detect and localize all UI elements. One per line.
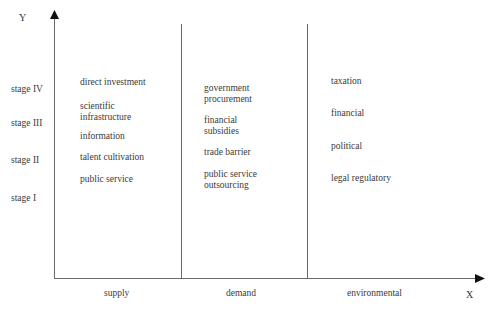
- x-axis-label: X: [466, 289, 473, 300]
- y-axis-label: Y: [19, 12, 26, 23]
- x-axis-arrow-icon: [475, 274, 485, 283]
- column-label-environmental: environmental: [347, 288, 402, 299]
- x-axis: [54, 278, 478, 279]
- divider-demand-environmental: [307, 24, 308, 279]
- divider-supply-demand: [181, 24, 182, 279]
- column-label-supply: supply: [104, 288, 129, 299]
- supply-item-talent-cultivation: talent cultivation: [80, 152, 144, 163]
- environmental-item-political: political: [331, 141, 362, 152]
- supply-item-information: information: [80, 131, 125, 142]
- stage-label-iii: stage III: [11, 118, 42, 129]
- y-axis: [54, 18, 55, 279]
- environmental-item-legal-regulatory: legal regulatory: [331, 173, 391, 184]
- environmental-item-financial: financial: [331, 108, 364, 119]
- demand-item-public-service-outsourcing: public service outsourcing: [204, 169, 269, 191]
- column-label-demand: demand: [226, 288, 256, 299]
- stage-label-iv: stage IV: [11, 84, 43, 95]
- supply-item-public-service: public service: [80, 174, 133, 185]
- environmental-item-taxation: taxation: [331, 76, 362, 87]
- demand-item-government-procurement: government procurement: [204, 83, 274, 105]
- supply-item-direct-investment: direct investment: [80, 77, 146, 88]
- y-axis-arrow-icon: [50, 10, 59, 20]
- stage-label-ii: stage II: [11, 155, 39, 166]
- demand-item-financial-subsidies: financial subsidies: [204, 115, 259, 137]
- stage-label-i: stage I: [11, 193, 36, 204]
- supply-item-scientific-infrastructure: scientific infrastructure: [80, 101, 150, 123]
- demand-item-trade-barrier: trade barrier: [204, 147, 251, 158]
